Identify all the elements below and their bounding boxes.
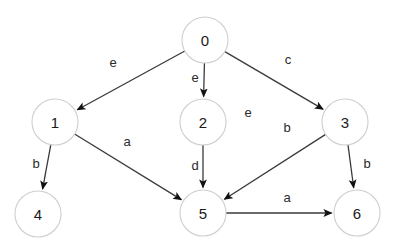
node-0[interactable]: 0 [182, 17, 228, 63]
edge-0-to-1 [77, 51, 184, 110]
edge-label-0-to-1: e [109, 55, 116, 70]
edge-label-1-to-4: b [32, 156, 39, 171]
node-1[interactable]: 1 [32, 99, 78, 145]
node-6[interactable]: 6 [334, 190, 380, 236]
node-label-4: 4 [34, 206, 42, 223]
nodes-layer: 0123456 [15, 17, 380, 237]
edge-0-to-2 [204, 63, 205, 97]
node-label-6: 6 [353, 205, 361, 222]
node-2[interactable]: 2 [180, 99, 226, 145]
node-3[interactable]: 3 [322, 99, 368, 145]
node-label-1: 1 [51, 114, 59, 131]
node-4[interactable]: 4 [15, 191, 61, 237]
graph-canvas-svg: eecbadbba 0123456 e [0, 0, 405, 248]
edge-label-2-to-5: d [191, 158, 198, 173]
graph-diagram: eecbadbba 0123456 e [0, 0, 405, 248]
node-5[interactable]: 5 [180, 190, 226, 236]
edge-1-to-4 [43, 145, 51, 189]
edge-3-to-6 [348, 145, 354, 188]
edge-3-to-5 [224, 134, 325, 199]
edge-label-0-to-3: c [285, 52, 292, 67]
free-label-0: e [244, 105, 251, 120]
edge-label-3-to-6: b [363, 156, 370, 171]
edge-label-5-to-6: a [283, 190, 291, 205]
edge-label-1-to-5: a [123, 134, 131, 149]
edge-label-3-to-5: b [283, 120, 290, 135]
node-label-3: 3 [341, 114, 349, 131]
node-label-2: 2 [199, 114, 207, 131]
node-label-5: 5 [199, 205, 207, 222]
edge-0-to-3 [225, 52, 323, 109]
edge-label-0-to-2: e [191, 70, 198, 85]
free-labels-layer: e [244, 105, 251, 120]
node-label-0: 0 [201, 32, 209, 49]
